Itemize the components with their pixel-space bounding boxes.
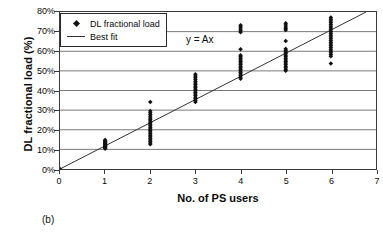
legend-entry-best-fit: Best fit — [65, 30, 160, 43]
x-tick-mark — [59, 170, 60, 174]
y-tick-label: 10% — [22, 145, 55, 155]
legend-entry-dl-fractional-load: DL fractional load — [65, 17, 160, 30]
line-marker-icon — [65, 36, 87, 37]
x-tick-mark — [241, 170, 242, 174]
data-point — [148, 100, 153, 105]
y-tick-label: 80% — [22, 6, 55, 16]
x-axis-tick-labels: 01234567 — [59, 176, 377, 190]
y-tick-label: 70% — [22, 26, 55, 36]
y-tick-label: 20% — [22, 125, 55, 135]
x-tick-label: 5 — [274, 176, 298, 186]
figure-scatter-dl-load: DL fractional load (%) 0%10%20%30%40%50%… — [0, 0, 383, 240]
x-tick-mark — [377, 170, 378, 174]
data-point — [283, 39, 288, 44]
chart-legend: DL fractional load Best fit — [60, 13, 167, 47]
x-tick-label: 6 — [320, 176, 344, 186]
x-axis-title: No. of PS users — [59, 192, 377, 204]
legend-label-best-fit: Best fit — [87, 32, 118, 42]
y-tick-label: 60% — [22, 46, 55, 56]
legend-label-dl-fractional-load: DL fractional load — [87, 19, 160, 29]
x-tick-mark — [150, 170, 151, 174]
x-tick-label: 4 — [229, 176, 253, 186]
y-axis-tick-labels: 0%10%20%30%40%50%60%70%80% — [22, 11, 55, 170]
x-tick-label: 3 — [183, 176, 207, 186]
equation-annotation: y = Ax — [186, 34, 214, 45]
x-tick-label: 7 — [365, 176, 383, 186]
x-tick-mark — [104, 170, 105, 174]
x-tick-label: 0 — [47, 176, 71, 186]
data-point — [329, 61, 334, 66]
figure-caption: (b) — [42, 214, 54, 225]
x-tick-mark — [286, 170, 287, 174]
x-tick-label: 2 — [138, 176, 162, 186]
y-tick-label: 40% — [22, 86, 55, 96]
y-tick-label: 30% — [22, 105, 55, 115]
diamond-marker-icon — [65, 21, 87, 26]
x-tick-mark — [332, 170, 333, 174]
x-tick-mark — [195, 170, 196, 174]
x-axis-ticks — [59, 170, 377, 175]
x-tick-label: 1 — [92, 176, 116, 186]
y-tick-label: 0% — [22, 165, 55, 175]
y-tick-label: 50% — [22, 66, 55, 76]
